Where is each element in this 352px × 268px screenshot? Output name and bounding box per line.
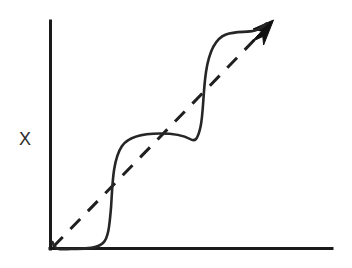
figure-canvas: X	[0, 0, 352, 268]
scatter-trend-diagram: X	[0, 0, 352, 268]
trend-dashed-line	[53, 30, 264, 247]
trend-arrowhead-icon	[252, 20, 274, 45]
y-axis-label: X	[19, 129, 31, 149]
